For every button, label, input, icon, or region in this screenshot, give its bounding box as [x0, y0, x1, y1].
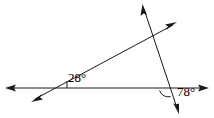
- slanted-ray-upper-right-arrowhead: [165, 22, 177, 30]
- transversal-upper-arrowhead: [141, 4, 148, 16]
- angle-arc-78-icon: [160, 90, 171, 97]
- geometry-figure: 28° 78°: [0, 0, 214, 118]
- transversal-lower-arrowhead: [173, 103, 179, 114]
- slanted-ray-lower-left-arrowhead: [31, 94, 43, 102]
- angle-label-28: 28°: [68, 70, 86, 86]
- angle-label-78: 78°: [177, 84, 195, 100]
- slanted-ray-group: [31, 22, 177, 102]
- geometry-canvas: [0, 0, 214, 118]
- transversal-line-group: [141, 4, 180, 114]
